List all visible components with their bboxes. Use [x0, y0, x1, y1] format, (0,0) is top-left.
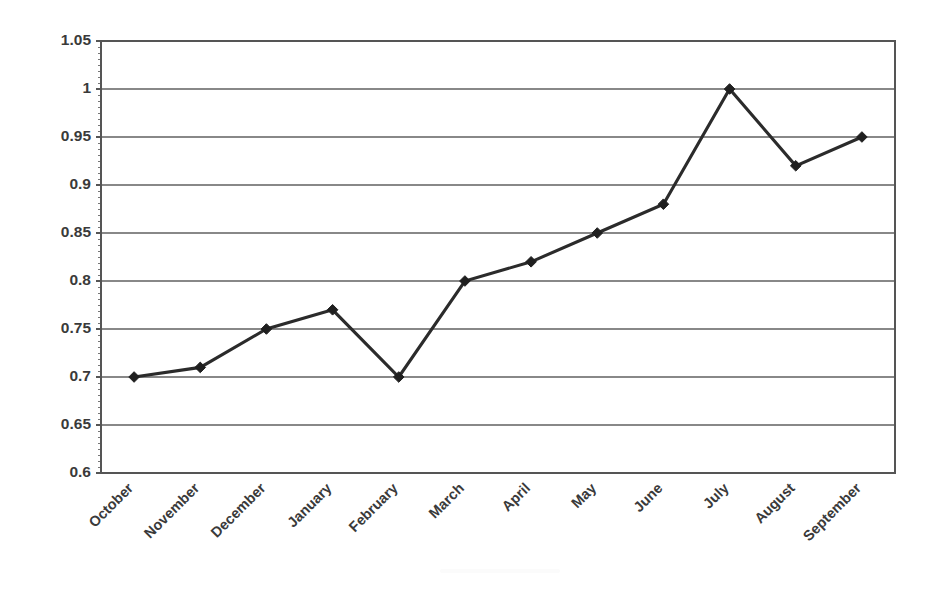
y-tick-label: 0.75 — [61, 319, 92, 336]
y-tick-label: 0.8 — [69, 271, 91, 288]
y-tick-label: 1 — [82, 79, 91, 96]
y-tick-label: 0.6 — [69, 463, 91, 480]
line-chart: 1.0510.950.90.850.80.750.70.650.6 Octobe… — [0, 0, 942, 591]
y-tick-label: 0.95 — [61, 127, 92, 144]
y-tick-label: 0.85 — [61, 223, 92, 240]
chart-container: 1.0510.950.90.850.80.750.70.650.6 Octobe… — [0, 0, 942, 591]
y-tick-label: 0.65 — [61, 415, 92, 432]
scan-artifact — [440, 569, 560, 573]
y-tick-label: 0.9 — [69, 175, 91, 192]
y-tick-label: 0.7 — [69, 367, 91, 384]
y-tick-label: 1.05 — [61, 31, 92, 48]
